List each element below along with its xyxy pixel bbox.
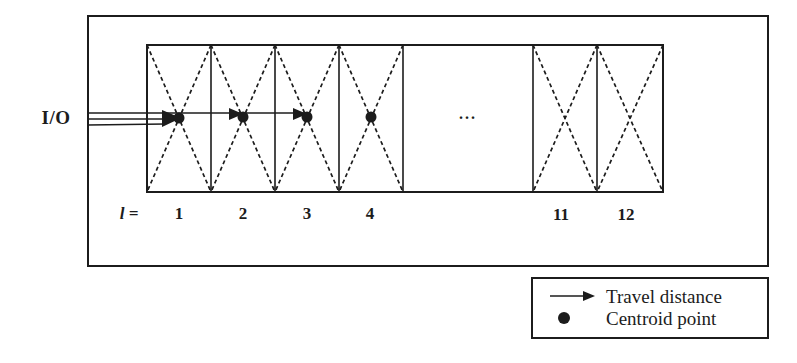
legend: Travel distance Centroid point [532,278,768,338]
centroid-dot-icon [238,112,249,123]
legend-centroid-label: Centroid point [606,308,717,329]
level-prefix-label: l = [120,204,139,223]
figure-storage-rack-diagram: I/O l = 1 2 3 4 11 12 ... Travel distanc… [0,0,797,363]
rack-band [147,45,663,192]
cell-label-1: 1 [175,204,184,223]
centroid-point-icon [558,312,570,324]
ellipsis-label: ... [459,105,477,122]
legend-travel-label: Travel distance [606,286,722,307]
cell-cross-12 [597,45,663,192]
cell-label-12: 12 [618,205,635,224]
io-travel-line [88,124,165,125]
cell-cross-11 [533,45,597,192]
centroid-dot-icon [366,112,377,123]
io-label: I/O [42,107,71,128]
cell-label-11: 11 [553,205,569,224]
legend-arrowhead [583,291,595,301]
centroid-dot-icon [302,112,313,123]
diagram-canvas: I/O l = 1 2 3 4 11 12 ... Travel distanc… [0,0,797,363]
cell-label-4: 4 [366,204,375,223]
centroid-dot-icon [174,113,185,124]
warehouse-boundary [88,16,768,266]
cell-label-2: 2 [239,204,248,223]
cell-label-3: 3 [303,204,312,223]
travel-distance-arrow-icon [550,291,595,301]
